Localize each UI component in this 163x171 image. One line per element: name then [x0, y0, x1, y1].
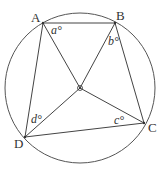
angle-label-a: a°: [51, 23, 62, 37]
diagram-canvas: A B C D a° b° c° d°: [0, 0, 163, 171]
vertex-c: [143, 122, 145, 124]
vertex-d: [24, 136, 26, 138]
angle-label-c: c°: [114, 113, 124, 127]
label-d: D: [14, 136, 23, 151]
center-point: [79, 87, 81, 89]
label-c: C: [148, 120, 157, 135]
segment-co: [80, 88, 144, 123]
label-a: A: [31, 10, 41, 25]
segment-bo: [80, 23, 115, 88]
label-b: B: [116, 8, 125, 23]
vertex-a: [42, 22, 44, 24]
angle-label-d: d°: [31, 112, 42, 126]
angle-label-b: b°: [108, 34, 119, 48]
